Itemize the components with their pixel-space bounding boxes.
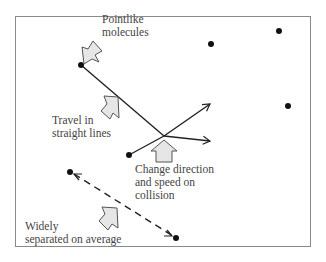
trajectory-lines xyxy=(74,65,210,236)
molecule-dot xyxy=(126,152,132,158)
molecule-dot xyxy=(285,103,291,109)
molecule-dot xyxy=(173,235,179,241)
label-change-direction: Change direction and speed on collision xyxy=(135,163,214,202)
path-outgoing-1 xyxy=(164,104,210,136)
molecule-dot xyxy=(276,28,282,34)
molecule-dot xyxy=(67,169,73,175)
label-travel-straight-lines: Travel in straight lines xyxy=(52,114,111,140)
callout-arrow-collision-icon xyxy=(151,140,177,162)
label-pointlike-molecules: Pointlike molecules xyxy=(102,13,149,39)
callout-arrow-pointlike-icon xyxy=(82,41,102,64)
molecule-dot xyxy=(78,62,84,68)
molecule-dot xyxy=(208,41,214,47)
label-widely-separated: Widely separated on average xyxy=(25,220,121,246)
path-outgoing-2 xyxy=(164,136,210,141)
